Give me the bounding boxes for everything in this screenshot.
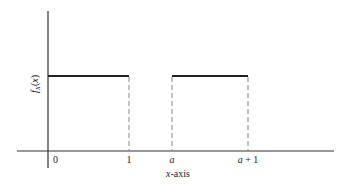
tick-label-0: 0 (53, 154, 58, 165)
tick-label-a-plus-1: a + 1 (238, 154, 259, 165)
tick-label-a: a (170, 154, 175, 165)
density-chart: 0 1 a a + 1 x-axis fX(x) (0, 0, 350, 186)
svg-text:fX(x): fX(x) (29, 75, 42, 93)
y-axis-label: fX(x) (29, 75, 42, 93)
x-axis-label: x-axis (165, 168, 190, 179)
tick-label-1: 1 (127, 154, 132, 165)
